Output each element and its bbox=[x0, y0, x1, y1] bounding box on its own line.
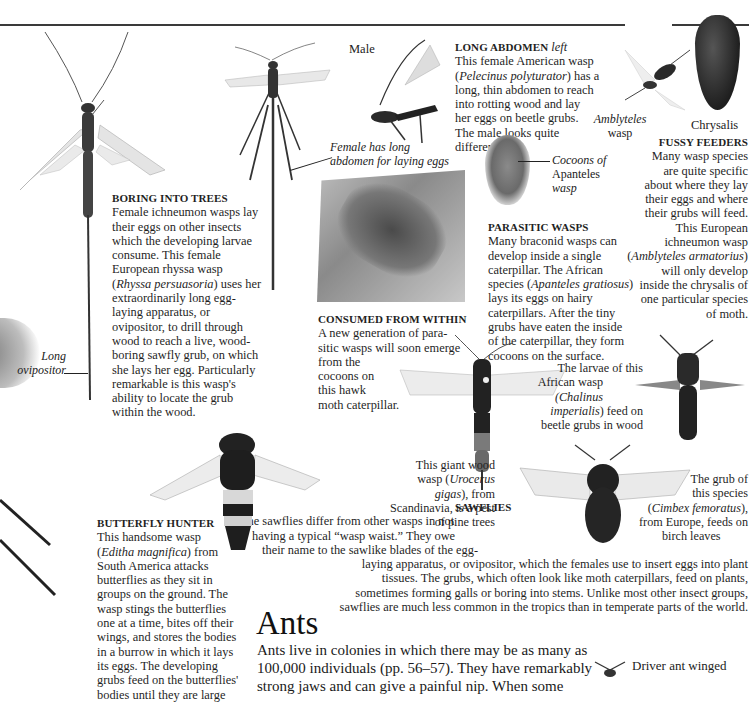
apanteles-cocoons-photo bbox=[485, 135, 530, 205]
caption-chrysalis: Chrysalis bbox=[691, 118, 738, 132]
section-butterfly-hunter: BUTTERFLY HUNTER This handsome wasp (Edi… bbox=[97, 516, 272, 702]
caption-female-long-abdomen: Female has long abdomen for laying eggs bbox=[330, 140, 460, 168]
hawk-moth-caterpillar-photo bbox=[317, 170, 465, 302]
driver-ant-photo bbox=[590, 660, 630, 675]
amblyteles-wasp-photo bbox=[615, 40, 695, 110]
chalinus-wasp-photo bbox=[655, 335, 749, 445]
caption-long-ovipositor: Long ovipositor bbox=[8, 349, 66, 377]
ants-section-title: Ants bbox=[256, 605, 318, 641]
caption-driver-ant: Driver ant winged bbox=[632, 659, 727, 673]
chrysalis-photo bbox=[695, 15, 740, 110]
caption-apanteles-cocoons: Cocoons of Apanteles wasp bbox=[552, 153, 622, 195]
pelecinus-male-photo bbox=[360, 35, 445, 145]
caption-pointer-line bbox=[64, 373, 88, 374]
ant-legs-photo bbox=[0, 500, 60, 610]
caption-chalinus: The larvae of this African wasp (Chalinu… bbox=[520, 361, 643, 432]
caption-pointer-line bbox=[518, 161, 550, 162]
